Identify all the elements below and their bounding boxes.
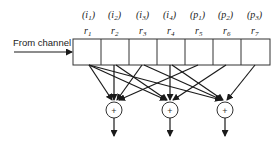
- adder-symbol: +: [222, 106, 227, 116]
- tap-connections: [89, 65, 255, 100]
- shift-register: [73, 39, 270, 65]
- adder-symbol: +: [111, 106, 116, 116]
- role-label-p3: (p3): [247, 9, 263, 22]
- role-label-i2: (i2): [108, 9, 122, 22]
- register-outline: [73, 39, 270, 65]
- adder-symbol: +: [167, 106, 172, 116]
- cell-name-r5: r5: [195, 25, 203, 38]
- cell-name-r6: r6: [223, 25, 231, 38]
- role-label-p2: (p2): [218, 9, 234, 22]
- role-label-p1: (p1): [190, 9, 206, 22]
- cell-name-r2: r2: [111, 25, 119, 38]
- cell-name-r1: r1: [84, 25, 91, 38]
- role-label-i1: (i1): [82, 9, 96, 22]
- role-labels: (i1) (i2) (i3) (i4) (p1) (p2) (p3): [82, 9, 263, 22]
- adder-2: +: [162, 102, 178, 136]
- adder-3: +: [217, 102, 233, 136]
- role-label-i4: (i4): [163, 9, 177, 22]
- cell-name-r3: r3: [139, 25, 147, 38]
- cell-name-r7: r7: [251, 25, 259, 38]
- cell-names: r1 r2 r3 r4 r5 r6 r7: [84, 25, 259, 38]
- cell-name-r4: r4: [167, 25, 175, 38]
- syndrome-circuit-diagram: (i1) (i2) (i3) (i4) (p1) (p2) (p3) r1 r2…: [0, 0, 279, 145]
- input-label: From channel: [13, 37, 71, 48]
- adder-1: +: [106, 102, 122, 136]
- role-label-i3: (i3): [136, 9, 150, 22]
